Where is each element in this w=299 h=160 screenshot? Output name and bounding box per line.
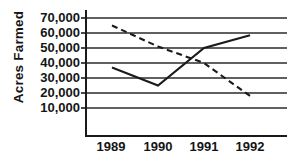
x-tick-label: 1990 [132,139,184,155]
x-tick-label: 1992 [224,139,276,155]
chart-figure: Acres Farmed 70,000 60,000 50,000 40,000… [0,0,299,160]
plot-area [0,0,299,160]
data-line-dashed [112,26,250,97]
x-tick-label: 1991 [178,139,230,155]
x-axis-tick-labels: 1989 1990 1991 1992 [0,139,299,159]
x-tick-label: 1989 [85,139,137,155]
